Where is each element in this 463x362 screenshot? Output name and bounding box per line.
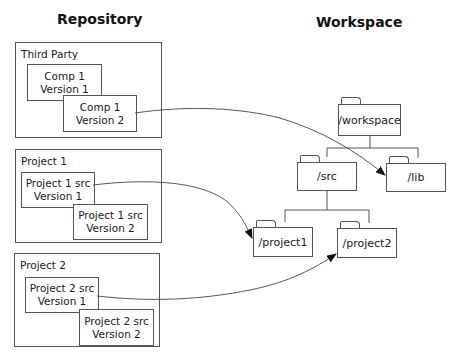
folder-icon-tab	[256, 220, 276, 227]
folder-project1: /project1	[253, 227, 313, 257]
folder-project2: /project2	[337, 228, 397, 258]
arrow-project2-to-project2	[97, 254, 336, 299]
folder-label: /lib	[386, 163, 446, 192]
folder-lib: /lib	[386, 163, 446, 192]
folder-label: /src	[297, 162, 357, 191]
folder-label: /project1	[253, 227, 313, 257]
folder-icon-tab	[389, 156, 409, 163]
folder-label: /workspace	[338, 104, 401, 136]
folder-src: /src	[297, 162, 357, 191]
folder-icon-tab	[341, 97, 361, 104]
folder-workspace: /workspace	[338, 104, 401, 136]
folder-icon-tab	[340, 221, 360, 228]
folder-icon-tab	[300, 155, 320, 162]
folder-label: /project2	[337, 228, 397, 258]
arrow-project1-to-project1	[93, 182, 252, 238]
